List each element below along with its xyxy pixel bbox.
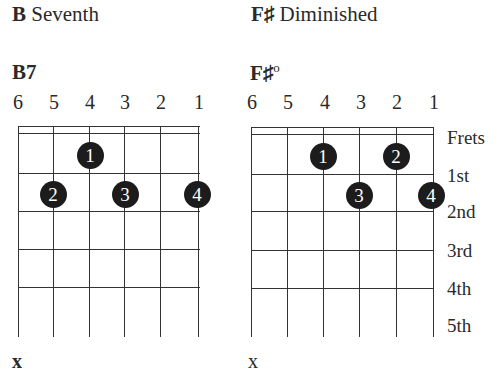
finger-dot: 3 xyxy=(112,181,139,208)
string-line xyxy=(287,127,288,337)
fret-label: 2nd xyxy=(447,201,476,223)
finger-dot: 3 xyxy=(346,182,373,209)
fret-label: Frets xyxy=(447,127,485,149)
string-line xyxy=(251,127,252,337)
chord-symbol: B7 xyxy=(12,60,37,85)
string-line xyxy=(53,126,54,337)
fret-line xyxy=(18,287,200,288)
muted-string-marker: x xyxy=(12,350,22,373)
nut-line xyxy=(18,126,200,127)
fret-label: 5th xyxy=(447,315,471,337)
chord-symbol: F♯o xyxy=(250,60,280,86)
finger-dot: 4 xyxy=(418,182,445,209)
nut-line xyxy=(251,127,434,128)
fret-label: 1st xyxy=(447,165,469,187)
finger-dot: 2 xyxy=(383,143,410,170)
string-number: 6 xyxy=(242,91,262,114)
fret-line xyxy=(251,174,434,175)
string-number: 5 xyxy=(278,91,298,114)
string-number: 2 xyxy=(151,91,171,114)
string-number: 1 xyxy=(424,91,444,114)
fret-line xyxy=(18,211,200,212)
fret-line xyxy=(18,133,200,134)
finger-dot: 4 xyxy=(184,181,211,208)
fret-line xyxy=(251,134,434,135)
string-number: 4 xyxy=(80,91,100,114)
muted-string-marker: x xyxy=(248,350,258,373)
fret-line xyxy=(18,173,200,174)
string-line xyxy=(198,126,199,337)
string-number: 1 xyxy=(189,91,209,114)
fret-label: 3rd xyxy=(447,240,472,262)
fret-line xyxy=(251,211,434,212)
string-line xyxy=(359,127,360,337)
fret-label: 4th xyxy=(447,278,471,300)
finger-dot: 2 xyxy=(40,181,67,208)
fret-line xyxy=(251,250,434,251)
chord-title: B Seventh xyxy=(12,2,99,27)
string-number: 4 xyxy=(315,91,335,114)
string-line xyxy=(18,126,19,337)
string-number: 5 xyxy=(44,91,64,114)
fret-line xyxy=(18,249,200,250)
string-line xyxy=(124,126,125,337)
string-line xyxy=(433,127,434,337)
string-number: 2 xyxy=(387,91,407,114)
finger-dot: 1 xyxy=(77,142,104,169)
chord-title: F♯ Diminished xyxy=(251,2,378,27)
string-number: 3 xyxy=(115,91,135,114)
finger-dot: 1 xyxy=(310,143,337,170)
fret-line xyxy=(251,288,434,289)
string-line xyxy=(160,126,161,337)
string-number: 6 xyxy=(8,91,28,114)
string-number: 3 xyxy=(351,91,371,114)
